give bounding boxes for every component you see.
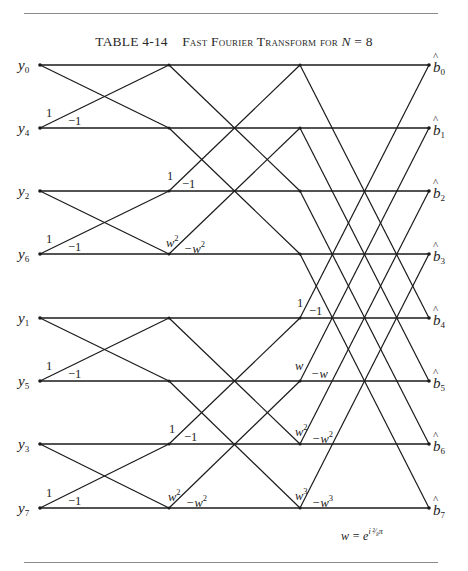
s2-weight-plus-1: w2 <box>166 234 179 250</box>
s2-weight-minus-1: −w2 <box>184 240 205 256</box>
butterfly-diagram <box>0 0 468 571</box>
s1-weight-minus-d: −1 <box>68 495 81 508</box>
output-label-6: b6 <box>433 439 445 456</box>
output-label-5: b5 <box>433 376 445 393</box>
input-label-2: y2 <box>18 184 29 201</box>
s3-weight-plus-1: w <box>295 360 303 373</box>
output-label-7: b7 <box>433 503 445 520</box>
s1-weight-plus-c: 1 <box>46 360 52 373</box>
input-label-0: y0 <box>18 58 29 75</box>
input-label-6: y3 <box>18 437 29 454</box>
s1-weight-minus-b: −1 <box>68 241 81 254</box>
output-label-2: b2 <box>433 186 445 203</box>
s2-weight-minus-3: −w2 <box>186 494 207 510</box>
s3-weight-minus-1: −w <box>311 368 328 381</box>
twiddle-formula: w = ei ²⁄₈π <box>341 527 383 544</box>
s1-weight-minus-a: −1 <box>68 115 81 128</box>
s3-weight-minus-2: −w2 <box>312 430 333 446</box>
s2-weight-plus-3: w2 <box>168 488 181 504</box>
s3-weight-plus-3: w3 <box>295 487 308 503</box>
s3-weight-minus-0: −1 <box>309 305 322 318</box>
input-label-5: y5 <box>18 374 29 391</box>
stage1-butterflies <box>40 65 169 508</box>
s3-weight-plus-2: w2 <box>295 423 308 439</box>
nodes <box>38 63 431 510</box>
output-label-0: b0 <box>433 60 445 77</box>
output-label-1: b1 <box>433 123 445 140</box>
s2-weight-plus-0: 1 <box>167 170 173 183</box>
s1-weight-minus-c: −1 <box>68 368 81 381</box>
s3-weight-plus-0: 1 <box>297 297 303 310</box>
s2-weight-plus-2: 1 <box>169 423 175 436</box>
s1-weight-plus-d: 1 <box>46 487 52 500</box>
s2-weight-minus-2: −1 <box>184 431 197 444</box>
output-label-3: b3 <box>433 249 445 266</box>
input-label-7: y7 <box>18 501 29 518</box>
s3-weight-minus-3: −w3 <box>312 494 333 510</box>
s2-weight-minus-0: −1 <box>182 178 195 191</box>
output-label-4: b4 <box>433 313 445 330</box>
s1-weight-plus-a: 1 <box>46 107 52 120</box>
s1-weight-plus-b: 1 <box>46 233 52 246</box>
horizontal-lines <box>40 65 429 508</box>
input-label-4: y1 <box>18 311 29 328</box>
input-label-3: y6 <box>18 247 29 264</box>
input-label-1: y4 <box>18 121 29 138</box>
